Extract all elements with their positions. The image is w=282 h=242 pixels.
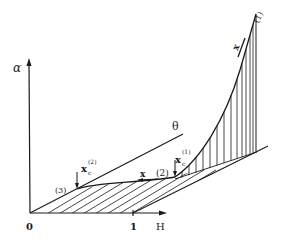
arrow-up-icon [27,58,32,66]
vertical-axis-label: α [13,61,21,75]
horizontal-axis [30,210,167,216]
point-3-label: (3) [55,186,66,195]
vertical-axis [27,58,32,213]
point-1-label: (1) [252,10,265,24]
arrow-right-icon [159,211,167,216]
svg-text:c: c [88,169,92,176]
xc1-label: x c (1) [175,148,191,167]
svg-text:x: x [81,163,88,174]
x-arrow-low-label: x [140,169,146,179]
svg-text:(1): (1) [182,148,191,155]
xc2-label: x c (2) [81,158,97,176]
depth-axis-label: θ [172,120,179,133]
wall-hatching [182,0,253,242]
svg-text:x: x [175,154,182,165]
xc2-marker [75,172,79,189]
svg-text:(2): (2) [88,158,97,165]
point-2-label: (2) [156,168,169,178]
svg-text:c: c [182,160,186,167]
phase-diagram: α H θ 0 1 (3) (2) (1) x c (2) x c (1) x … [0,0,282,242]
horizontal-axis-label: H [156,221,165,232]
transition-curve [77,14,256,189]
origin-label: 0 [26,221,33,232]
wall-base-line [175,152,257,179]
unit-tick-label: 1 [130,221,137,232]
